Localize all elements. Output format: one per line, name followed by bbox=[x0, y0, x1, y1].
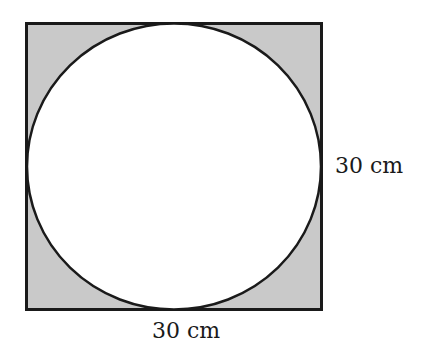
side-length-label-right: 30 cm bbox=[335, 153, 403, 178]
inscribed-circle bbox=[27, 24, 321, 310]
side-length-label-bottom: 30 cm bbox=[152, 318, 220, 343]
diagram-canvas bbox=[0, 0, 434, 358]
